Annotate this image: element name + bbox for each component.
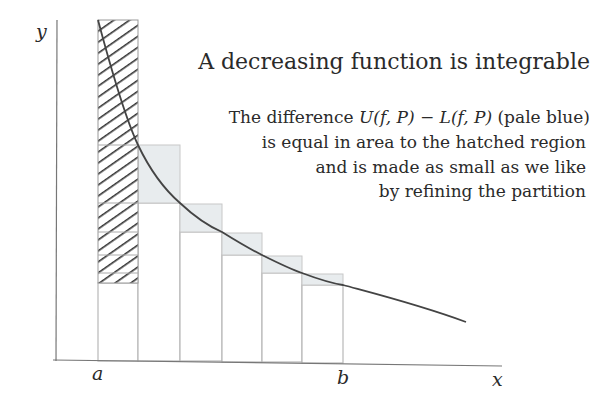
b-label: b (337, 366, 349, 388)
diff-rect-2 (138, 145, 180, 203)
description-line-2: is equal in area to the hatched region (262, 132, 586, 152)
hatched-region (98, 20, 138, 283)
lower-rect-6 (302, 285, 343, 363)
lower-rect-4 (222, 255, 262, 362)
description-line-4: by refining the partition (379, 181, 586, 201)
x-axis-label: x (492, 368, 503, 390)
lower-rect-5 (262, 273, 302, 362)
description-line-1: The difference U(f, P) − L(f, P) (pale b… (229, 107, 590, 127)
diagram-title: A decreasing function is integrable (197, 49, 590, 74)
lower-rect-2 (138, 203, 180, 361)
a-label: a (92, 362, 103, 384)
y-axis-label: y (35, 20, 47, 42)
integrability-diagram: y x a b A decreasing function is integra… (0, 0, 614, 404)
description-line-3: and is made as small as we like (315, 157, 586, 177)
lower-rect-1 (98, 283, 138, 361)
lower-rect-3 (180, 232, 222, 361)
y-axis (56, 20, 57, 361)
